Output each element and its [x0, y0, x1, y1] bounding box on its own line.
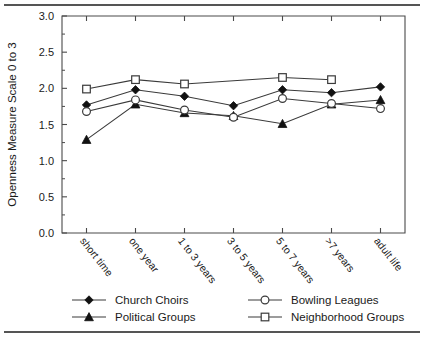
- legend-label: Bowling Leagues: [291, 294, 379, 306]
- x-axis-tick-label: adult life: [372, 235, 406, 273]
- data-point-marker: [230, 113, 238, 121]
- data-point-marker: [279, 74, 287, 82]
- y-axis-tick-label: 1.5: [39, 119, 54, 131]
- series-group: [82, 83, 384, 110]
- y-axis-tick-label: 0.0: [39, 227, 54, 239]
- figure-page: 0.00.51.01.52.02.53.0short timeone year1…: [0, 0, 424, 342]
- y-axis-tick-label: 2.5: [39, 46, 54, 58]
- y-axis-title: Openness Measure Scale 0 to 3: [6, 42, 18, 206]
- data-point-marker: [376, 96, 385, 104]
- y-axis-tick-label: 1.0: [39, 155, 54, 167]
- data-point-marker: [328, 76, 336, 84]
- y-axis-tick-label: 0.5: [39, 191, 54, 203]
- data-point-marker: [278, 86, 286, 94]
- data-point-marker: [82, 135, 91, 143]
- data-point-marker: [132, 76, 140, 84]
- data-point-marker: [328, 100, 336, 108]
- x-axis-tick-label: 3 to 5 years: [225, 235, 268, 286]
- data-point-marker: [83, 108, 91, 116]
- data-point-marker: [377, 105, 385, 113]
- legend-label: Church Choirs: [115, 294, 189, 306]
- legend-entry: Neighborhood Groups: [248, 311, 404, 323]
- series-line: [87, 77, 332, 89]
- data-point-marker: [327, 88, 335, 96]
- legend-entry: Bowling Leagues: [248, 294, 379, 306]
- y-axis-tick-label: 2.0: [39, 82, 54, 94]
- data-point-marker: [229, 101, 237, 109]
- legend-entry: Political Groups: [72, 311, 196, 323]
- data-point-marker: [279, 95, 287, 103]
- x-axis-tick-label: 1 to 3 years: [176, 235, 219, 286]
- series-group: [83, 74, 336, 93]
- data-point-marker: [132, 96, 140, 104]
- y-axis-tick-label: 3.0: [39, 10, 54, 22]
- data-point-marker: [181, 106, 189, 114]
- x-axis-tick-label: 5 to 7 years: [274, 235, 317, 286]
- legend-entry: Church Choirs: [72, 294, 189, 306]
- legend-label: Political Groups: [115, 311, 196, 323]
- data-point-marker: [131, 86, 139, 94]
- legend-marker: [261, 296, 269, 304]
- legend-marker: [85, 296, 93, 304]
- chart-canvas: 0.00.51.01.52.02.53.0short timeone year1…: [0, 0, 424, 342]
- axes-frame: [62, 16, 405, 233]
- x-axis-tick-label: short time: [78, 235, 116, 279]
- x-axis-tick-label: >7 years: [323, 235, 357, 274]
- data-point-marker: [376, 83, 384, 91]
- data-point-marker: [180, 92, 188, 100]
- data-point-marker: [83, 85, 91, 93]
- legend-label: Neighborhood Groups: [291, 311, 404, 323]
- line-chart-figure: 0.00.51.01.52.02.53.0short timeone year1…: [0, 0, 424, 342]
- x-axis-tick-label: one year: [127, 235, 162, 275]
- data-point-marker: [181, 80, 189, 88]
- legend-marker: [261, 313, 269, 321]
